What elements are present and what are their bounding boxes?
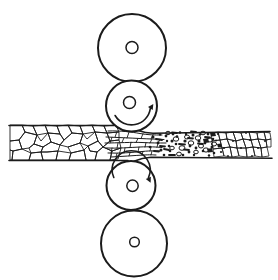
entry-grain-boundaries xyxy=(10,125,121,160)
nip-elongated-grain-flowlines xyxy=(105,131,166,157)
rolling-mill-diagram xyxy=(0,0,278,280)
fine-grain-junction-dots xyxy=(215,132,266,157)
rolling-mill-figure xyxy=(0,0,278,280)
